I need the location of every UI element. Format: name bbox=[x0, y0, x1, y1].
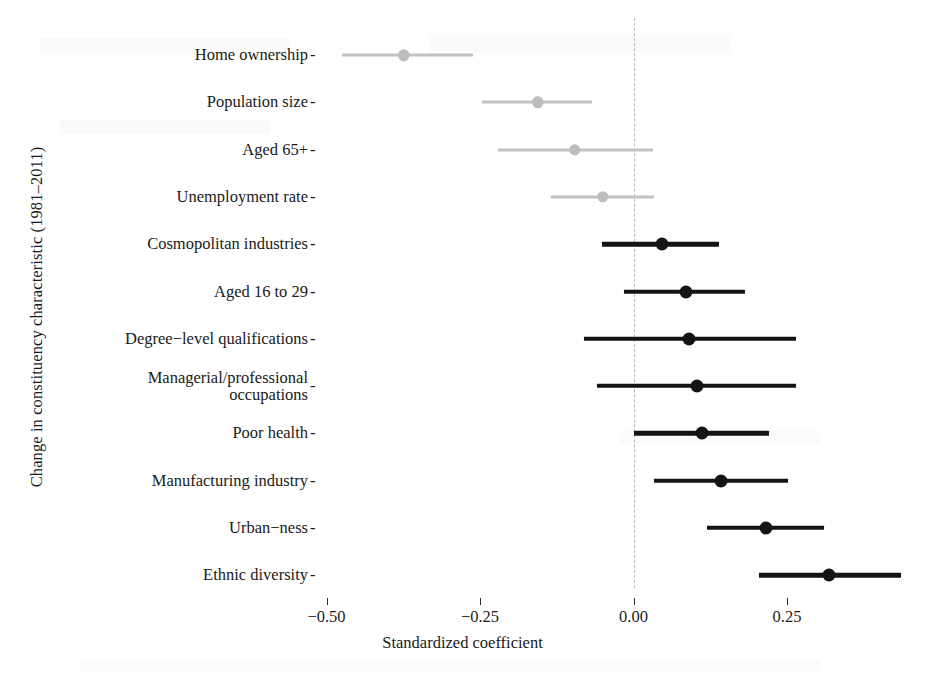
y-tick-label: Managerial/professional occupations bbox=[148, 369, 308, 404]
y-tick-label: Population size bbox=[207, 93, 308, 111]
y-tick-mark: - bbox=[310, 140, 316, 160]
y-tick-mark: - bbox=[310, 376, 316, 396]
point-estimate-marker bbox=[398, 49, 410, 61]
y-tick-mark: - bbox=[310, 518, 316, 538]
x-tick-mark bbox=[480, 598, 481, 605]
x-tick-label: 0.25 bbox=[773, 607, 802, 627]
x-tick-label: −0.25 bbox=[461, 607, 499, 627]
point-estimate-marker bbox=[532, 97, 544, 109]
point-estimate-marker bbox=[714, 474, 727, 487]
y-tick-mark: - bbox=[310, 471, 316, 491]
point-estimate-marker bbox=[597, 191, 609, 203]
x-tick-mark bbox=[787, 598, 788, 605]
zero-reference-line bbox=[634, 18, 635, 588]
x-tick-label: 0.00 bbox=[619, 607, 648, 627]
y-tick-label: Ethnic diversity bbox=[203, 566, 308, 584]
y-tick-label: Urban−ness bbox=[229, 519, 308, 537]
y-tick-label: Manufacturing industry bbox=[152, 471, 308, 489]
y-tick-label: Unemployment rate bbox=[176, 188, 308, 206]
y-tick-label: Degree−level qualifications bbox=[125, 330, 308, 348]
y-tick-mark: - bbox=[310, 45, 316, 65]
plot-area: Home ownership-Population size-Aged 65+-… bbox=[0, 0, 925, 600]
y-tick-mark: - bbox=[310, 187, 316, 207]
x-axis-title: Standardized coefficient bbox=[0, 633, 925, 653]
y-tick-mark: - bbox=[310, 565, 316, 585]
y-tick-label: Cosmopolitan industries bbox=[147, 235, 308, 253]
forest-plot-figure: Change in constituency characteristic (1… bbox=[0, 0, 925, 691]
point-estimate-marker bbox=[823, 569, 836, 582]
y-tick-label: Home ownership bbox=[195, 46, 308, 64]
point-estimate-marker bbox=[683, 332, 696, 345]
paper-showthrough bbox=[80, 660, 820, 672]
point-estimate-marker bbox=[691, 380, 704, 393]
point-estimate-marker bbox=[655, 238, 668, 251]
y-tick-label: Aged 65+ bbox=[242, 140, 308, 158]
point-estimate-marker bbox=[569, 144, 581, 156]
y-tick-mark: - bbox=[310, 282, 316, 302]
y-tick-mark: - bbox=[310, 92, 316, 112]
y-tick-mark: - bbox=[310, 329, 316, 349]
point-estimate-marker bbox=[679, 285, 692, 298]
y-tick-mark: - bbox=[310, 234, 316, 254]
y-tick-label: Poor health bbox=[232, 424, 308, 442]
x-tick-mark bbox=[634, 598, 635, 605]
y-tick-label: Aged 16 to 29 bbox=[214, 282, 308, 300]
x-tick-label: −0.50 bbox=[307, 607, 345, 627]
point-estimate-marker bbox=[759, 522, 772, 535]
x-tick-mark bbox=[327, 598, 328, 605]
y-tick-mark: - bbox=[310, 423, 316, 443]
point-estimate-marker bbox=[695, 427, 708, 440]
